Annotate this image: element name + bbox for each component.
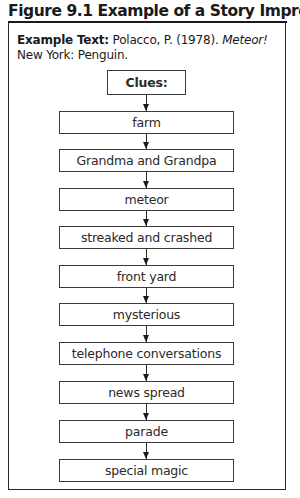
reference-publisher: New York: Penguin. [17,48,128,62]
figure-title: Figure 9.1 Example of a Story Impression [8,1,287,23]
arrow-down-icon [146,172,147,188]
clue-box-parade: parade [59,420,234,443]
clue-box-meteor: meteor [59,188,234,211]
arrow-down-icon [146,211,147,226]
arrow-down-icon [146,443,147,459]
reference-author: Polacco, P. (1978). [109,33,222,47]
arrow-down-icon [146,95,147,111]
arrow-down-icon [146,365,147,381]
example-text-reference: Example Text: Polacco, P. (1978). Meteor… [17,33,282,63]
clue-box-news-spread: news spread [59,381,234,404]
arrow-down-icon [146,288,147,303]
clue-box-telephone-conversations: telephone conversations [59,342,234,365]
arrow-down-icon [146,134,147,149]
clue-box-special-magic: special magic [59,459,234,482]
clue-box-farm: farm [59,111,234,134]
reference-label: Example Text: [17,33,109,47]
clue-box-front-yard: front yard [59,265,234,288]
reference-book-title: Meteor! [222,33,268,47]
clue-box-streaked-and-crashed: streaked and crashed [59,226,234,249]
clues-header-box: Clues: [107,70,186,95]
clue-box-grandma-and-grandpa: Grandma and Grandpa [59,149,234,172]
arrow-down-icon [146,249,147,265]
clue-box-mysterious: mysterious [59,303,234,326]
arrow-down-icon [146,326,147,342]
arrow-down-icon [146,404,147,420]
